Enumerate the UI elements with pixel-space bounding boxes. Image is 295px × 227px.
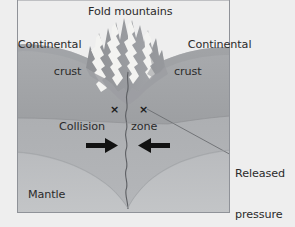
label-continental-crust-left: Continental crust: [4, 24, 81, 106]
label-continental-crust-right: Continental crust: [174, 24, 251, 106]
label-continental-crust-right-line2: crust: [174, 65, 251, 79]
label-released-line1: Released: [235, 167, 295, 181]
label-fold-mountains: Fold mountains: [88, 5, 172, 19]
label-collision: Collision: [59, 120, 105, 134]
label-released-line2: pressure: [235, 208, 295, 222]
label-zone: zone: [131, 120, 157, 134]
x-marker-left: ×: [110, 104, 119, 115]
x-marker-right: ×: [139, 104, 148, 115]
diagram-canvas: Fold mountains Continental crust Contine…: [0, 0, 295, 227]
label-continental-crust-right-line1: Continental: [188, 38, 252, 51]
label-continental-crust-left-line1: Continental: [18, 38, 82, 51]
label-mantle: Mantle: [28, 188, 65, 202]
label-continental-crust-left-line2: crust: [4, 65, 81, 79]
label-released-pressure: Released pressure can cause earthquakes: [235, 140, 295, 227]
